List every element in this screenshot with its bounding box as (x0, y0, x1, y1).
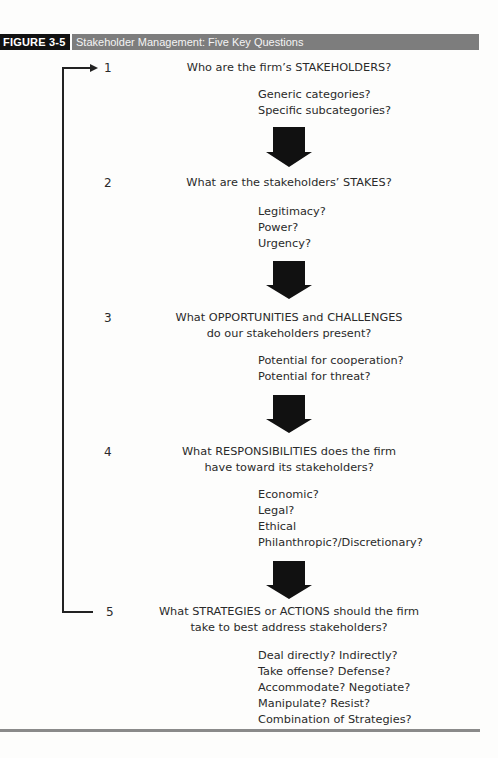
feedback-arrow-icon (90, 64, 98, 72)
question-line: take to best address stakeholders? (124, 620, 454, 636)
down-arrow-icon (266, 395, 312, 433)
step-subquestions-5: Deal directly? Indirectly? Take offense?… (258, 648, 412, 728)
step-question-5: What STRATEGIES or ACTIONS should the fi… (124, 604, 454, 636)
step-number-4: 4 (104, 444, 112, 460)
bottom-divider (0, 729, 480, 732)
subquestion: Legal? (258, 503, 423, 519)
subquestion: Ethical (258, 519, 423, 535)
step-subquestions-4: Economic? Legal? Ethical Philanthropic?/… (258, 487, 423, 551)
subquestion: Manipulate? Resist? (258, 696, 412, 712)
subquestion: Legitimacy? (258, 204, 326, 220)
subquestion: Potential for cooperation? (258, 353, 404, 369)
step-number-2: 2 (104, 175, 112, 191)
step-question-1: Who are the firm’s STAKEHOLDERS? (124, 60, 454, 76)
subquestion: Accommodate? Negotiate? (258, 680, 412, 696)
down-arrow-icon (266, 561, 312, 599)
question-line: do our stakeholders present? (124, 326, 454, 342)
subquestion: Combination of Strategies? (258, 712, 412, 728)
subquestion: Philanthropic?/Discretionary? (258, 535, 423, 551)
step-question-3: What OPPORTUNITIES and CHALLENGES do our… (124, 310, 454, 342)
step-number-5: 5 (106, 604, 114, 620)
subquestion: Take offense? Defense? (258, 664, 412, 680)
subquestion: Deal directly? Indirectly? (258, 648, 412, 664)
step-number-1: 1 (104, 60, 112, 76)
figure-title: Stakeholder Management: Five Key Questio… (72, 34, 479, 50)
subquestion: Urgency? (258, 236, 326, 252)
step-question-2: What are the stakeholders’ STAKES? (124, 175, 454, 191)
subquestion: Power? (258, 220, 326, 236)
feedback-loop-top (62, 67, 92, 69)
step-number-3: 3 (104, 310, 112, 326)
down-arrow-icon (266, 127, 312, 167)
subquestion: Specific subcategories? (258, 103, 391, 119)
question-line: have toward its stakeholders? (124, 460, 454, 476)
subquestion: Economic? (258, 487, 423, 503)
step-question-4: What RESPONSIBILITIES does the firm have… (124, 444, 454, 476)
feedback-loop-bottom (62, 611, 93, 613)
subquestion: Generic categories? (258, 87, 391, 103)
question-line: What RESPONSIBILITIES does the firm (124, 444, 454, 460)
feedback-loop-line (62, 68, 64, 612)
subquestion: Potential for threat? (258, 369, 404, 385)
question-line: What are the stakeholders’ STAKES? (124, 175, 454, 191)
step-subquestions-2: Legitimacy? Power? Urgency? (258, 204, 326, 252)
down-arrow-icon (266, 261, 312, 299)
step-subquestions-1: Generic categories? Specific subcategori… (258, 87, 391, 119)
figure-label: FIGURE 3-5 (0, 34, 70, 50)
step-subquestions-3: Potential for cooperation? Potential for… (258, 353, 404, 385)
question-line: What OPPORTUNITIES and CHALLENGES (124, 310, 454, 326)
question-line: Who are the firm’s STAKEHOLDERS? (124, 60, 454, 76)
question-line: What STRATEGIES or ACTIONS should the fi… (124, 604, 454, 620)
